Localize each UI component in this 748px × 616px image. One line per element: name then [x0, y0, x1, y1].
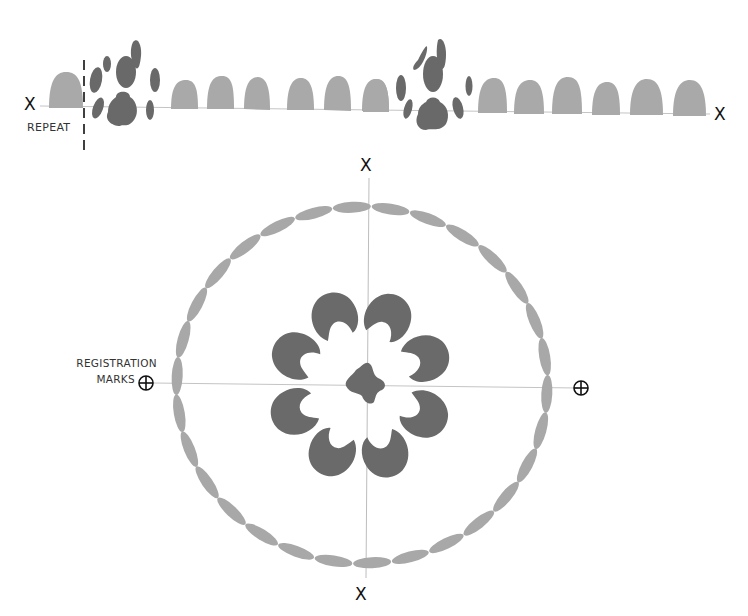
ring-leaf	[371, 201, 410, 217]
ring-leaf	[192, 463, 222, 501]
ring-leaf	[475, 242, 510, 276]
border-strip	[40, 39, 710, 155]
center-motif	[346, 363, 385, 404]
medallion-axis-mark-bottom: X	[355, 586, 367, 603]
scallop	[514, 80, 544, 114]
scallop	[478, 78, 507, 113]
ring-leaf	[333, 201, 372, 214]
ring-leaf	[540, 375, 553, 414]
repeat-label: REPEAT	[27, 121, 70, 134]
scallop	[552, 77, 582, 114]
ring-leaf	[353, 556, 392, 569]
inner-petal	[356, 424, 416, 484]
ring-leaf	[522, 301, 546, 340]
ring-leaf	[391, 547, 431, 567]
paw-motif	[396, 39, 473, 130]
registration-mark-left	[139, 376, 153, 390]
ring-leaf	[171, 394, 188, 433]
paw-motif	[88, 40, 160, 126]
medallion-axis-mark-top: X	[360, 157, 372, 174]
ring-leaf	[276, 540, 315, 563]
ring-leaf	[171, 357, 184, 396]
ring-leaf	[294, 203, 334, 223]
ring-leaf	[530, 411, 551, 451]
scallop	[207, 76, 234, 109]
registration-mark-right	[574, 381, 588, 395]
ring-leaf	[177, 430, 201, 469]
scallop	[592, 82, 620, 115]
ring-leaf	[227, 231, 264, 263]
medallion	[139, 178, 588, 578]
ring-leaf	[258, 213, 297, 240]
ring-leaf	[314, 553, 353, 569]
inner-petal	[301, 423, 361, 483]
ring-leaf	[427, 530, 466, 557]
registration-label-line1: REGISTRATION	[67, 357, 157, 369]
scallop	[324, 76, 351, 111]
ring-leaf	[183, 285, 210, 324]
ring-leaf	[502, 269, 532, 307]
scallop	[287, 78, 314, 110]
scallop	[673, 80, 706, 116]
inner-petal	[264, 382, 324, 442]
inner-petal	[265, 325, 325, 385]
ring-leaf	[214, 494, 249, 528]
ring-leaf	[460, 507, 497, 539]
ring-leaf	[490, 479, 523, 515]
registration-label-line2: MARKS	[87, 373, 135, 385]
scallop	[49, 72, 83, 108]
ring-leaf	[243, 520, 281, 549]
scallop	[171, 80, 198, 109]
ring-leaf	[408, 207, 447, 230]
strip-axis-mark-left: X	[24, 96, 36, 113]
inner-petal	[304, 286, 364, 346]
ring-leaf	[513, 446, 540, 485]
inner-petal	[395, 385, 455, 445]
ring-leaf	[536, 337, 553, 376]
ring-leaf	[443, 221, 481, 250]
ring-leaf	[173, 320, 194, 360]
strip-axis-mark-right: X	[714, 106, 726, 123]
pattern-canvas	[0, 0, 748, 616]
ring-leaf	[202, 255, 235, 291]
inner-petal	[396, 328, 456, 388]
scallop	[244, 77, 270, 110]
scallop	[630, 79, 663, 115]
